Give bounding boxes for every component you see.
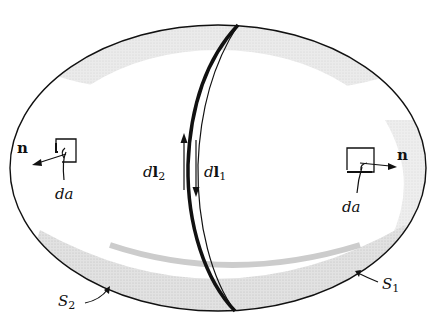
normal-label-left: n (17, 141, 28, 156)
area-label-right: da (342, 200, 361, 215)
s2-label: S2 (58, 294, 75, 311)
s1-sub: 1 (392, 282, 399, 295)
s1-label: S1 (382, 277, 399, 294)
normal-label-right: n (397, 148, 408, 163)
s2-sub: 2 (68, 299, 75, 312)
dl1-sub: 1 (219, 170, 226, 183)
s1-s: S (382, 275, 392, 293)
diagram-canvas (0, 0, 440, 325)
dl1-d: d (204, 163, 214, 181)
s2-s: S (58, 292, 68, 310)
dl2-d: d (143, 163, 153, 181)
dl2-label: dl2 (143, 165, 165, 182)
area-label-left: da (55, 187, 74, 202)
dl1-label: dl1 (204, 165, 226, 182)
s1-pointer (358, 273, 378, 282)
dl2-sub: 2 (158, 170, 165, 183)
s2-pointer (85, 289, 108, 303)
